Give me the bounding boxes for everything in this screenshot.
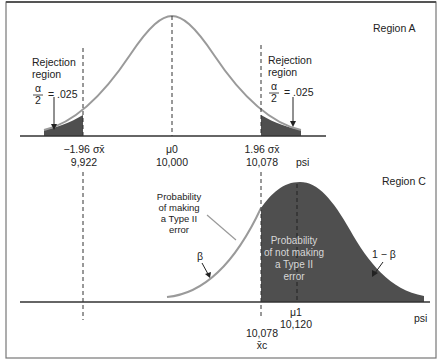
- left-rejection-shade: [44, 115, 83, 136]
- tick-pos-196: 1.96 σx̄: [244, 143, 280, 155]
- unit-psi-c: psi: [414, 312, 427, 324]
- alpha-denominator: 2: [271, 92, 277, 104]
- type2-label-4: error: [169, 224, 189, 235]
- region-a: Region A Rejection region α 2 = .025 Rej…: [20, 16, 416, 168]
- alpha-denominator: 2: [35, 94, 41, 106]
- power-label: Probability: [271, 235, 318, 246]
- right-rejection-shade: [261, 115, 301, 136]
- left-rejection-label-2: region: [32, 68, 61, 80]
- power-label-4: error: [283, 271, 305, 282]
- alpha-numerator: α: [271, 80, 277, 92]
- right-rejection-label-2: region: [268, 66, 297, 78]
- alpha-numerator: α: [35, 82, 41, 94]
- hypothesis-test-chart: Region A Rejection region α 2 = .025 Rej…: [0, 0, 440, 363]
- right-rejection-label: Rejection: [268, 54, 312, 66]
- tick-xc: x̄c: [257, 339, 268, 351]
- tick-10120: 10,120: [280, 318, 312, 330]
- beta-label: β: [197, 250, 203, 262]
- tick-mu0: μ0: [166, 143, 178, 155]
- type2-label: Probability: [157, 191, 202, 202]
- alpha-value: = .025: [48, 88, 78, 100]
- region-c-title: Region C: [382, 175, 426, 187]
- one-minus-beta-label: 1 − β: [372, 248, 396, 260]
- alpha-value: = .025: [284, 86, 314, 98]
- tick-10078: 10,078: [246, 156, 278, 168]
- tick-neg-196: −1.96 σx̄: [63, 143, 105, 155]
- power-label-3: a Type II: [275, 259, 313, 270]
- tick-10078-c: 10,078: [246, 327, 278, 339]
- region-a-title: Region A: [373, 22, 416, 34]
- tick-mu1: μ1: [290, 306, 302, 318]
- left-rejection-label: Rejection: [32, 56, 76, 68]
- unit-psi: psi: [296, 156, 309, 168]
- tick-10000: 10,000: [156, 156, 188, 168]
- tick-9922: 9,922: [71, 156, 97, 168]
- region-c: Region C Probability of making a Type II…: [20, 172, 430, 351]
- type2-label-3: a Type II: [161, 213, 197, 224]
- type2-label-2: of making: [158, 202, 199, 213]
- power-label-2: of not making: [264, 247, 324, 258]
